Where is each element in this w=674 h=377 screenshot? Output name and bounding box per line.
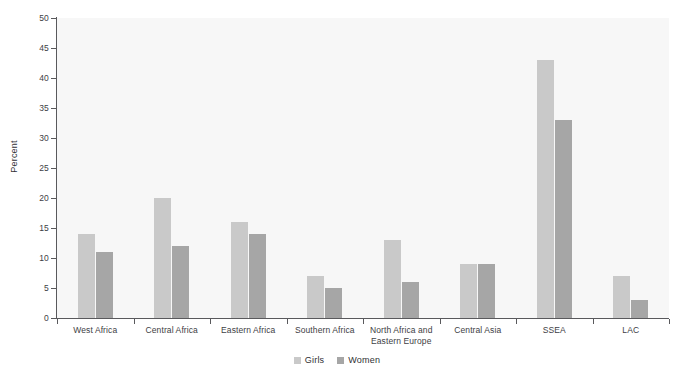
x-axis-label-north-africa-and-eastern-europe: North Africa andEastern Europe: [363, 325, 440, 347]
x-axis-label-lac: LAC: [593, 325, 670, 336]
figure-container: 05101520253035404550 Percent West Africa…: [0, 0, 674, 377]
y-tick-label: 5: [3, 284, 49, 293]
bar-women[interactable]: [325, 288, 342, 318]
y-tick-label: 10: [3, 254, 49, 263]
legend-label: Girls: [305, 356, 325, 365]
x-axis-label-west-africa: West Africa: [57, 325, 134, 336]
bar-group: [78, 18, 113, 318]
bar-group: [537, 18, 572, 318]
bar-girls[interactable]: [537, 60, 554, 318]
bar-group: [613, 18, 648, 318]
bar-women[interactable]: [172, 246, 189, 318]
bar-women[interactable]: [96, 252, 113, 318]
y-tick-label: 50: [3, 14, 49, 23]
y-tick-label: 15: [3, 224, 49, 233]
x-tick-mark: [516, 319, 517, 324]
x-tick-mark: [593, 319, 594, 324]
x-axis-label-eastern-africa: Eastern Africa: [210, 325, 287, 336]
x-tick-mark: [210, 319, 211, 324]
bar-girls[interactable]: [460, 264, 477, 318]
x-label-line: Southern Africa: [287, 325, 364, 336]
x-tick-mark: [363, 319, 364, 324]
x-label-line: SSEA: [516, 325, 593, 336]
x-label-line: LAC: [593, 325, 670, 336]
y-tick-label: 45: [3, 44, 49, 53]
x-axis-label-ssea: SSEA: [516, 325, 593, 336]
y-tick-label: 0: [3, 314, 49, 323]
bars-layer: [57, 18, 669, 318]
bar-women[interactable]: [555, 120, 572, 318]
legend-item-women[interactable]: Women: [337, 356, 380, 365]
bar-group: [460, 18, 495, 318]
bar-girls[interactable]: [78, 234, 95, 318]
bar-group: [154, 18, 189, 318]
bar-girls[interactable]: [307, 276, 324, 318]
square-swatch-icon: [294, 357, 301, 364]
x-label-line: Central Africa: [134, 325, 211, 336]
bar-girls[interactable]: [231, 222, 248, 318]
legend-item-girls[interactable]: Girls: [294, 356, 325, 365]
bar-group: [307, 18, 342, 318]
figure-title-fragment: [0, 0, 674, 7]
bar-girls[interactable]: [613, 276, 630, 318]
x-label-line: Central Asia: [440, 325, 517, 336]
x-label-line: North Africa and: [363, 325, 440, 336]
x-label-line: Eastern Africa: [210, 325, 287, 336]
bar-women[interactable]: [249, 234, 266, 318]
square-swatch-icon: [337, 357, 344, 364]
chart-legend: GirlsWomen: [0, 353, 674, 367]
x-axis-category-labels: West AfricaCentral AfricaEastern AfricaS…: [57, 325, 669, 351]
legend-label: Women: [348, 356, 380, 365]
bar-girls[interactable]: [384, 240, 401, 318]
x-tick-mark: [669, 319, 670, 324]
x-tick-mark: [440, 319, 441, 324]
bar-girls[interactable]: [154, 198, 171, 318]
bar-group: [384, 18, 419, 318]
y-axis-title: Percent: [10, 117, 19, 197]
x-tick-mark: [287, 319, 288, 324]
x-tick-mark: [57, 319, 58, 324]
bar-group: [231, 18, 266, 318]
x-label-line: West Africa: [57, 325, 134, 336]
y-axis-tick-labels: 05101520253035404550: [0, 0, 49, 377]
bar-women[interactable]: [402, 282, 419, 318]
x-tick-mark: [134, 319, 135, 324]
bar-women[interactable]: [478, 264, 495, 318]
y-tick-label: 40: [3, 74, 49, 83]
x-axis-label-central-asia: Central Asia: [440, 325, 517, 336]
bar-women[interactable]: [631, 300, 648, 318]
x-axis-label-central-africa: Central Africa: [134, 325, 211, 336]
x-label-line: Eastern Europe: [363, 336, 440, 347]
y-tick-label: 35: [3, 104, 49, 113]
x-axis-label-southern-africa: Southern Africa: [287, 325, 364, 336]
